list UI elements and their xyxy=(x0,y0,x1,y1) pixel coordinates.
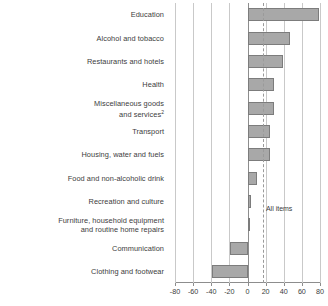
all-items-reference-label: All items xyxy=(266,205,292,212)
x-tick xyxy=(229,283,230,286)
bar xyxy=(248,8,320,21)
gridline-40 xyxy=(284,3,285,283)
category-label: Education xyxy=(131,10,164,19)
category-label: Health xyxy=(142,80,164,89)
bar xyxy=(212,265,247,278)
x-tick xyxy=(302,283,303,286)
x-tick xyxy=(248,283,249,286)
x-axis: -80-60-40-20020406080 xyxy=(175,283,320,306)
x-tick xyxy=(284,283,285,286)
category-label: Transport xyxy=(132,127,164,136)
bar-chart: EducationAlcohol and tobaccoRestaurants … xyxy=(0,0,328,306)
gridline-60 xyxy=(302,3,303,283)
gridline--40 xyxy=(211,3,212,283)
x-tick xyxy=(193,283,194,286)
category-label: Communication xyxy=(112,244,164,253)
x-tick xyxy=(320,283,321,286)
x-tick-label: -80 xyxy=(170,287,180,296)
category-label: Housing, water and fuels xyxy=(81,150,164,159)
bar xyxy=(248,102,274,115)
x-tick-label: 20 xyxy=(262,287,270,296)
x-tick-label: -20 xyxy=(224,287,234,296)
x-tick-label: 60 xyxy=(298,287,306,296)
zero-line xyxy=(248,3,249,283)
bar xyxy=(248,172,257,185)
category-label: Restaurants and hotels xyxy=(87,57,164,66)
category-label: Recreation and culture xyxy=(89,197,164,206)
bar xyxy=(248,78,274,91)
x-tick-label: -60 xyxy=(188,287,198,296)
bar xyxy=(248,55,283,68)
bar xyxy=(230,242,247,255)
gridline--60 xyxy=(193,3,194,283)
x-tick-label: 40 xyxy=(280,287,288,296)
category-label: Miscellaneous goodsand services2 xyxy=(94,99,164,119)
category-label: Furniture, household equipmentand routin… xyxy=(58,216,164,234)
x-tick-label: 80 xyxy=(316,287,324,296)
all-items-reference-line xyxy=(263,3,264,283)
bar xyxy=(248,125,271,138)
category-label: Alcohol and tobacco xyxy=(96,34,164,43)
x-tick-label: -40 xyxy=(206,287,216,296)
gridline-20 xyxy=(266,3,267,283)
gridline--80 xyxy=(175,3,176,283)
bar xyxy=(248,32,291,45)
gridline-80 xyxy=(320,3,321,283)
category-label: Clothing and footwear xyxy=(91,267,164,276)
x-tick xyxy=(175,283,176,286)
bar xyxy=(248,148,271,161)
bar xyxy=(248,195,252,208)
bar xyxy=(248,218,250,231)
x-tick-label: 0 xyxy=(246,287,250,296)
plot-area: All items xyxy=(175,3,320,283)
x-tick xyxy=(266,283,267,286)
category-label-column: EducationAlcohol and tobaccoRestaurants … xyxy=(0,0,172,283)
category-label: Food and non-alcoholic drink xyxy=(68,174,164,183)
x-tick xyxy=(211,283,212,286)
